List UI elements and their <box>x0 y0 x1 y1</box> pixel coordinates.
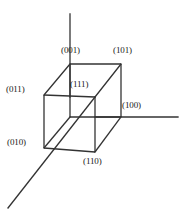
cube-wireframe-svg <box>0 0 182 210</box>
cube-depth-edges <box>44 64 121 152</box>
vertex-label-110: (110) <box>83 156 102 166</box>
depth-edge-bottom-left <box>44 117 70 148</box>
vertex-label-001: (001) <box>61 45 80 55</box>
vertex-label-101: (101) <box>113 45 132 55</box>
axis-lines <box>8 14 178 208</box>
vertex-label-100: (100) <box>122 100 141 110</box>
vertex-label-111: (111) <box>70 79 88 89</box>
cube-miller-index-figure: (001) (101) (011) (111) (100) (010) (110… <box>0 0 182 210</box>
vertex-label-010: (010) <box>7 137 26 147</box>
depth-edge-bottom-right <box>95 117 121 152</box>
depth-edge-top-right <box>95 64 121 97</box>
depth-edge-top-left <box>44 64 70 95</box>
y-axis-line <box>8 97 95 208</box>
vertex-label-011: (011) <box>6 84 25 94</box>
